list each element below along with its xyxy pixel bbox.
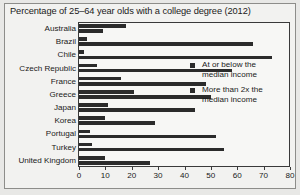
bar — [79, 77, 121, 81]
axis-tick — [105, 167, 106, 170]
bar — [79, 42, 253, 46]
bar-group — [79, 141, 291, 154]
axis-tick-label: 0 — [67, 171, 91, 180]
chart-figure: Percentage of 25–64 year olds with a col… — [0, 0, 300, 195]
bar — [79, 103, 108, 107]
category-label: Korea — [0, 114, 76, 127]
axis-tick-label: 70 — [252, 171, 276, 180]
category-label: Czech Republic — [0, 62, 76, 75]
legend-item[interactable]: At or below the median income — [190, 60, 294, 80]
bar-group — [79, 114, 291, 127]
bar — [79, 130, 90, 134]
bar — [79, 121, 155, 125]
bar-group — [79, 127, 291, 140]
bar-row: Turkey — [0, 141, 300, 154]
legend-label-line2: median income — [202, 70, 294, 80]
axis-tick — [211, 167, 212, 170]
bar-group — [79, 154, 291, 167]
bar-row: United Kingdom — [0, 154, 300, 167]
bar — [79, 56, 272, 60]
axis-tick-label: 20 — [120, 171, 144, 180]
bar — [79, 116, 105, 120]
axis-tick — [185, 167, 186, 170]
bar — [79, 64, 97, 68]
axis-tick-label: 30 — [146, 171, 170, 180]
bar — [79, 37, 87, 41]
bar-group — [79, 35, 291, 48]
bar — [79, 148, 224, 152]
category-label: Australia — [0, 22, 76, 35]
axis-tick — [79, 167, 80, 170]
bar-group — [79, 22, 291, 35]
chart-title: Percentage of 25–64 year olds with a col… — [10, 6, 251, 16]
bar — [79, 143, 92, 147]
bar-row: Korea — [0, 114, 300, 127]
chart-legend: At or below the median income More than … — [190, 60, 294, 110]
bar — [79, 108, 195, 112]
axis-tick-label: 60 — [225, 171, 249, 180]
bar — [79, 50, 84, 54]
bar — [79, 135, 216, 139]
axis-tick — [158, 167, 159, 170]
bar-row: Brazil — [0, 35, 300, 48]
axis-tick-label: 10 — [93, 171, 117, 180]
bar — [79, 82, 206, 86]
category-label: Turkey — [0, 141, 76, 154]
legend-swatch-icon — [190, 88, 195, 93]
bar-row: Portugal — [0, 127, 300, 140]
axis-tick-label: 50 — [199, 171, 223, 180]
category-label: France — [0, 75, 76, 88]
category-label: Japan — [0, 101, 76, 114]
bar — [79, 161, 150, 165]
legend-swatch-icon — [190, 63, 195, 68]
category-label: Brazil — [0, 35, 76, 48]
bar — [79, 24, 126, 28]
legend-label-line1: More than 2x the — [202, 85, 294, 95]
legend-label-line1: At or below the — [202, 60, 294, 70]
category-label: Chile — [0, 48, 76, 61]
axis-tick-label: 80 — [278, 171, 300, 180]
bar — [79, 90, 134, 94]
bar — [79, 156, 105, 160]
axis-tick-label: 40 — [173, 171, 197, 180]
legend-label-line2: median income — [202, 95, 294, 105]
axis-tick — [237, 167, 238, 170]
category-label: Greece — [0, 88, 76, 101]
axis-tick — [132, 167, 133, 170]
x-axis: 01020304050607080 — [78, 167, 290, 189]
bar-row: Australia — [0, 22, 300, 35]
bar — [79, 29, 103, 33]
category-label: Portugal — [0, 127, 76, 140]
axis-tick — [264, 167, 265, 170]
category-label: United Kingdom — [0, 154, 76, 167]
axis-tick — [290, 167, 291, 170]
legend-item[interactable]: More than 2x the median income — [190, 85, 294, 105]
